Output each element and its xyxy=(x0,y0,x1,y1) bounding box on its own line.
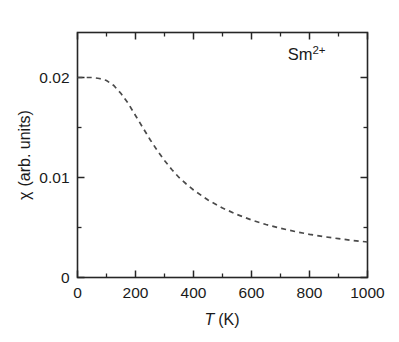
y-tick-label: 0 xyxy=(61,269,70,286)
y-tick-label: 0.01 xyxy=(39,169,69,186)
y-tick-label: 0.02 xyxy=(39,69,69,86)
x-tick-label: 200 xyxy=(123,284,149,301)
x-axis-title-symbol: T xyxy=(204,311,215,328)
svg-text:T(K): T(K) xyxy=(204,311,239,328)
x-tick-label: 600 xyxy=(239,284,265,301)
annotation-superscript: 2+ xyxy=(312,44,325,56)
svg-text:χ(arb. units): χ(arb. units) xyxy=(16,110,33,200)
x-tick-label: 800 xyxy=(297,284,323,301)
y-axis-title-symbol: χ xyxy=(16,191,33,200)
x-tick-label: 1000 xyxy=(350,284,385,301)
y-axis-title-unit: (arb. units) xyxy=(16,110,33,186)
x-axis-title: T(K) xyxy=(204,311,239,328)
x-tick-label: 400 xyxy=(181,284,207,301)
y-axis-title: χ(arb. units) xyxy=(16,110,33,200)
figure-panel: 0200400600800100000.010.02 Sm2+ T(K) χ(a… xyxy=(0,0,399,342)
x-tick-label: 0 xyxy=(73,284,82,301)
chart-canvas: 0200400600800100000.010.02 Sm2+ T(K) χ(a… xyxy=(0,0,399,342)
annotation-base: Sm xyxy=(288,45,313,63)
x-axis-title-unit: (K) xyxy=(218,311,239,328)
